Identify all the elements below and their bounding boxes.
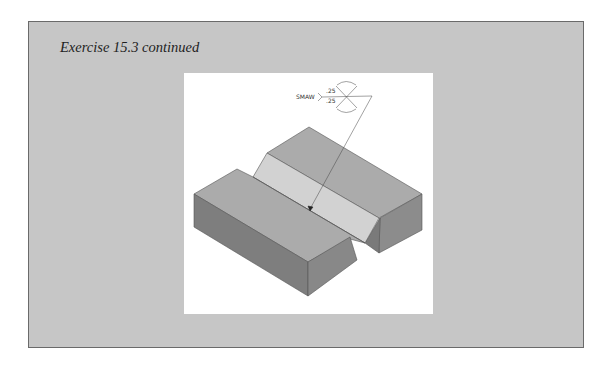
exercise-box: Exercise 15.3 continued: [28, 21, 584, 348]
weld-process-label: SMAW: [296, 93, 315, 100]
weld-size-arrow-side: .25: [326, 98, 336, 104]
figure-panel: SMAW .25 .25: [184, 73, 433, 314]
exercise-title: Exercise 15.3 continued: [60, 39, 199, 56]
weld-size-other-side: .25: [326, 88, 336, 94]
weld-joint-drawing: [184, 73, 433, 314]
